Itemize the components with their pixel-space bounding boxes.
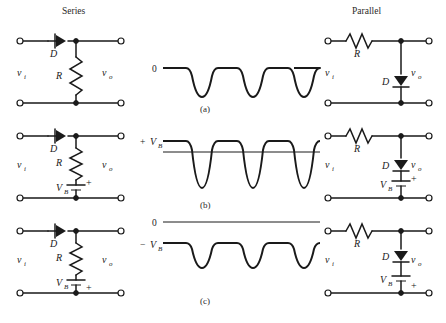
diode-symbol-parallel-c xyxy=(393,251,409,262)
input-terminal-top xyxy=(325,228,331,234)
output-terminal-top xyxy=(426,228,432,234)
battery-sub-parallel-c: B xyxy=(388,280,393,288)
output-sub-parallel-c: o xyxy=(418,260,422,268)
clipper-circuits-figure: Series Parallel (a) (b) (c) D R xyxy=(0,0,446,323)
input-terminal-bottom xyxy=(325,290,331,296)
row-c-parallel-circuit: R D V B + v i v xyxy=(0,0,446,323)
input-label-parallel-c: v xyxy=(325,254,330,265)
diode-label-parallel-c: D xyxy=(381,251,390,262)
junction-node xyxy=(399,229,404,234)
output-terminal-bottom xyxy=(426,290,432,296)
output-label-parallel-c: v xyxy=(411,254,416,265)
junction-node xyxy=(399,291,404,296)
input-sub-parallel-c: i xyxy=(332,260,334,268)
battery-plus-parallel-c: + xyxy=(411,280,417,291)
parallel-circuit-c: R D V B + v i v xyxy=(325,224,432,296)
resistor-label-parallel-c: R xyxy=(353,238,360,249)
battery-label-parallel-c: V xyxy=(380,274,388,285)
resistor-symbol-parallel-c xyxy=(346,224,372,238)
